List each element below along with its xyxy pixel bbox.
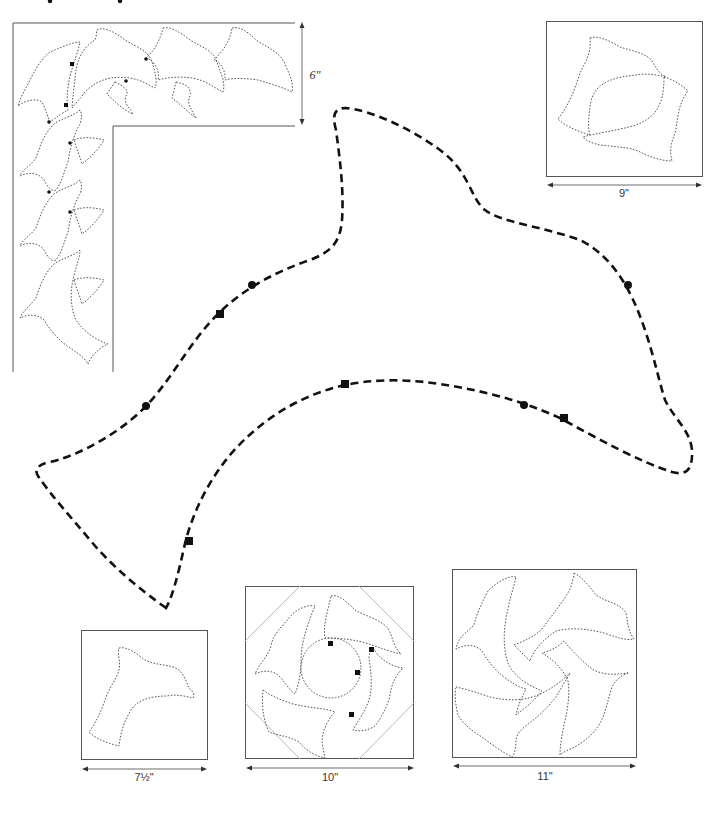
square-marker — [341, 380, 349, 388]
corner-guide-line — [359, 586, 414, 641]
block-9-label: 9" — [614, 187, 634, 199]
arrow-left-icon — [82, 767, 88, 772]
square-marker — [560, 414, 568, 422]
arrow-left-icon — [453, 764, 459, 769]
square-marker — [369, 647, 374, 652]
dolphin-outline — [353, 648, 403, 731]
dolphin-outline — [37, 108, 693, 608]
block-7-5-label: 7½" — [129, 771, 159, 783]
dolphin-outline — [89, 648, 194, 746]
block-9-inch: 9" — [546, 21, 716, 181]
corner-guide-line — [359, 703, 414, 759]
arrow-right-icon — [630, 764, 636, 769]
block-11-inch: 11" — [452, 569, 652, 789]
dolphin-outline — [455, 673, 570, 757]
dolphin-outline — [324, 596, 401, 654]
circle-marker — [248, 281, 256, 289]
block-7-5-inch: 7½" — [81, 630, 211, 790]
dolphin-outline — [456, 577, 542, 715]
arrow-left-icon — [246, 766, 252, 771]
dolphin-outline — [255, 606, 315, 694]
square-marker — [185, 537, 193, 545]
block-10-label: 10" — [317, 771, 343, 783]
arrow-right-icon — [201, 767, 207, 772]
circle-marker — [142, 402, 150, 410]
dolphin-outline — [262, 690, 335, 758]
square-marker — [355, 670, 360, 675]
dolphin-outline — [583, 77, 688, 161]
square-marker — [216, 310, 224, 318]
square-marker — [328, 641, 333, 646]
block-frame — [453, 570, 637, 758]
dolphin-outline — [514, 573, 634, 661]
dolphin-outline — [542, 641, 628, 755]
block-10-inch: 10" — [245, 586, 425, 786]
block-11-label: 11" — [532, 770, 558, 782]
circle-marker — [520, 401, 528, 409]
arrow-right-icon — [408, 766, 414, 771]
corner-guide-line — [245, 703, 300, 759]
square-marker — [349, 712, 354, 717]
center-circle — [301, 638, 361, 698]
circle-marker — [624, 281, 632, 289]
dolphin-outline — [558, 37, 666, 135]
corner-guide-line — [245, 586, 300, 641]
